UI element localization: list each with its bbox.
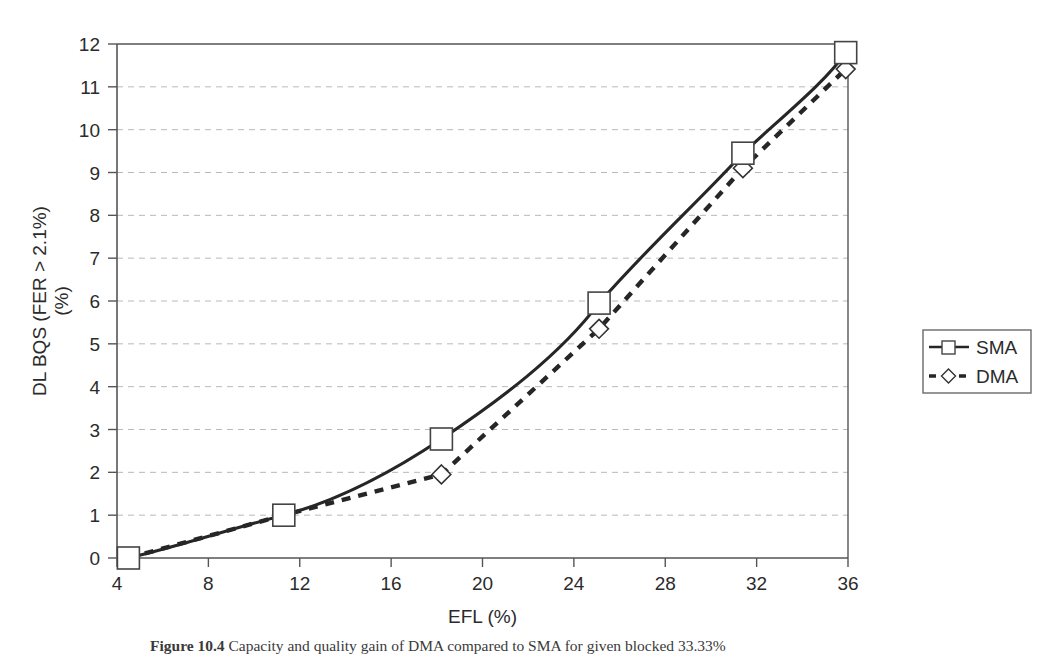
- y-tick-label: 10: [79, 120, 100, 141]
- sma-marker: [273, 504, 295, 526]
- legend: SMA DMA: [923, 330, 1031, 393]
- x-tick-label: 8: [203, 573, 214, 594]
- y-tick-label: 3: [89, 420, 100, 441]
- sma-marker: [430, 428, 452, 450]
- legend-label-sma: SMA: [976, 337, 1018, 358]
- x-tick-label: 20: [472, 573, 493, 594]
- sma-marker: [835, 42, 857, 64]
- x-axis-tick-labels: 4 8 12 16 20 24 28 32 36: [112, 573, 859, 594]
- y-axis-title: DL BQS (FER > 2.1%): [29, 206, 50, 396]
- x-tick-label: 16: [381, 573, 402, 594]
- y-tick-label: 11: [80, 77, 100, 98]
- x-axis-title: EFL (%): [448, 606, 517, 627]
- y-axis-tick-labels: 0 1 2 3 4 5 6 7 8 9 10 11 12: [79, 34, 101, 569]
- x-tick-label: 36: [837, 573, 858, 594]
- x-axis-ticks: [117, 558, 848, 567]
- sma-marker: [588, 292, 610, 314]
- y-tick-label: 1: [89, 505, 100, 526]
- y-tick-label: 6: [89, 291, 100, 312]
- sma-marker: [117, 547, 139, 569]
- square-marker-icon: [942, 341, 955, 354]
- y-axis-title-units: (%): [51, 286, 72, 316]
- sma-marker: [732, 142, 754, 164]
- y-tick-label: 5: [89, 334, 100, 355]
- x-tick-label: 28: [655, 573, 676, 594]
- y-axis-ticks: [108, 44, 117, 558]
- y-tick-label: 4: [89, 377, 100, 398]
- x-tick-label: 24: [563, 573, 585, 594]
- y-tick-label: 12: [79, 34, 100, 55]
- y-tick-label: 9: [89, 163, 100, 184]
- x-tick-label: 12: [289, 573, 310, 594]
- y-tick-label: 2: [89, 462, 100, 483]
- x-tick-label: 4: [112, 573, 123, 594]
- figure-number: Figure 10.4: [150, 637, 225, 654]
- figure-caption-text: Capacity and quality gain of DMA compare…: [229, 637, 726, 654]
- legend-label-dma: DMA: [976, 366, 1019, 387]
- figure-root: 0 1 2 3 4 5 6 7 8 9 10 11 12: [0, 0, 1064, 659]
- y-tick-label: 8: [89, 205, 100, 226]
- line-chart: 0 1 2 3 4 5 6 7 8 9 10 11 12: [0, 0, 1064, 659]
- y-tick-label: 0: [89, 548, 100, 569]
- x-tick-label: 32: [746, 573, 767, 594]
- y-tick-label: 7: [89, 248, 100, 269]
- figure-caption: Figure 10.4 Capacity and quality gain of…: [150, 636, 940, 656]
